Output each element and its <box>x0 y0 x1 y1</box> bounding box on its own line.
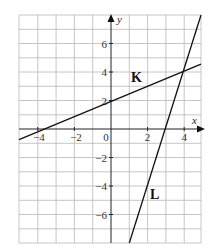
y-tick-label: −4 <box>95 180 107 192</box>
y-tick-label: 6 <box>102 38 108 50</box>
y-tick-label: 4 <box>102 66 108 78</box>
y-tick-label: −2 <box>95 152 107 164</box>
x-tick-label: 2 <box>145 131 151 143</box>
coordinate-plot: −4 −2 0 2 4 6 4 2 −2 −4 −6 y x K L <box>0 0 212 251</box>
x-tick-label: −2 <box>70 131 82 143</box>
line-k-label: K <box>131 70 142 85</box>
line-l-label: L <box>150 187 159 202</box>
y-tick-label: −6 <box>95 209 107 221</box>
x-tick-label: 4 <box>181 131 187 143</box>
axes <box>19 20 200 243</box>
y-axis-label: y <box>116 13 122 25</box>
origin-label: 0 <box>103 131 109 143</box>
x-axis-label: x <box>191 114 197 126</box>
